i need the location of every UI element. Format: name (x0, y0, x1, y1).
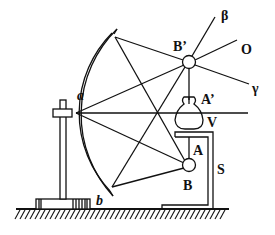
hatch-mark (15, 210, 20, 219)
hatch-mark (125, 210, 130, 219)
hatch-mark (115, 210, 120, 219)
hatch-mark (155, 210, 160, 219)
hatch-mark (60, 210, 65, 219)
hatch-mark (70, 210, 75, 219)
object-ball-B (183, 159, 196, 172)
label-a: a (77, 88, 84, 103)
hatch-mark (25, 210, 30, 219)
hatch-mark (205, 210, 210, 219)
label-beta: β (221, 8, 228, 23)
hatch-mark (145, 210, 150, 219)
image-ball-Bprime (183, 56, 196, 69)
hatch-mark (150, 210, 155, 219)
label-O: O (241, 42, 252, 57)
hatch-mark (200, 210, 205, 219)
concave-mirror-diagram: a b B’ B A’ A V S β O γ (0, 0, 275, 235)
hatch-mark (220, 210, 225, 219)
ray-O (195, 40, 237, 60)
hatch-mark (75, 210, 80, 219)
hatch-mark (90, 210, 95, 219)
mirror-clamp (53, 109, 72, 117)
hatch-mark (120, 210, 125, 219)
ray-gamma (195, 65, 249, 84)
hatch-mark (175, 210, 180, 219)
hatch-mark (40, 210, 45, 219)
ray-beta (192, 17, 215, 56)
hatch-mark (100, 210, 105, 219)
hatch-mark (95, 210, 100, 219)
label-V: V (207, 115, 217, 130)
hatch-mark (55, 210, 60, 219)
ray-top-to-B (115, 37, 185, 161)
hatch-mark (190, 210, 195, 219)
hatch-mark (140, 210, 145, 219)
label-gamma: γ (251, 81, 259, 96)
ray-a-to-Bprime (76, 65, 184, 113)
hatch-mark (45, 210, 50, 219)
hatch-mark (180, 210, 185, 219)
hatch-mark (110, 210, 115, 219)
ray-bottom-to-Bprime (112, 67, 185, 187)
label-A: A (193, 143, 204, 158)
ray-bottom-to-B (112, 168, 184, 187)
label-Aprime: A’ (201, 92, 215, 107)
label-Bprime: B’ (173, 39, 187, 54)
hatch-mark (105, 210, 110, 219)
hatch-mark (80, 210, 85, 219)
hatch-mark (50, 210, 55, 219)
hatch-mark (170, 210, 175, 219)
ground-hatching (15, 210, 225, 219)
hatch-mark (165, 210, 170, 219)
hatch-mark (30, 210, 35, 219)
hatch-mark (20, 210, 25, 219)
hatch-mark (185, 210, 190, 219)
hatch-mark (210, 210, 215, 219)
hatch-mark (35, 210, 40, 219)
label-S: S (217, 162, 225, 177)
hatch-mark (85, 210, 90, 219)
hatch-mark (215, 210, 220, 219)
label-b: b (96, 193, 103, 208)
hatch-mark (65, 210, 70, 219)
ray-a-to-B (76, 113, 184, 163)
label-B: B (183, 178, 192, 193)
hatch-mark (195, 210, 200, 219)
hatch-mark (130, 210, 135, 219)
hatch-mark (135, 210, 140, 219)
hatch-mark (160, 210, 165, 219)
